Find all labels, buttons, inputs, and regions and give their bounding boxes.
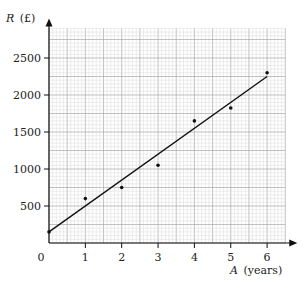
data-point bbox=[265, 71, 269, 75]
x-tick-label: 6 bbox=[264, 251, 271, 264]
y-axis-arrow-icon bbox=[46, 18, 53, 26]
x-tick-label: 5 bbox=[227, 251, 234, 264]
data-point bbox=[193, 119, 197, 123]
x-tick-label: 3 bbox=[155, 251, 162, 264]
y-axis-title: R (£) bbox=[5, 12, 35, 25]
axes bbox=[46, 18, 298, 246]
grid bbox=[49, 28, 285, 243]
data-point bbox=[84, 197, 88, 201]
origin-label: 0 bbox=[38, 251, 45, 264]
x-axis-title: A (years) bbox=[229, 264, 282, 277]
y-tick-label: 1000 bbox=[13, 163, 41, 176]
data-point bbox=[120, 186, 124, 190]
x-tick-label: 2 bbox=[118, 251, 125, 264]
data-point bbox=[156, 164, 160, 168]
y-tick-label: 1500 bbox=[13, 126, 41, 139]
scatter-chart: 12345605001000150020002500 R (£) A (year… bbox=[0, 0, 304, 292]
y-tick-label: 500 bbox=[20, 200, 41, 213]
y-tick-label: 2500 bbox=[13, 52, 41, 65]
data-point bbox=[229, 106, 233, 110]
x-tick-label: 1 bbox=[82, 251, 89, 264]
x-tick-label: 4 bbox=[191, 251, 198, 264]
y-tick-label: 2000 bbox=[13, 89, 41, 102]
x-axis-arrow-icon bbox=[289, 240, 297, 247]
